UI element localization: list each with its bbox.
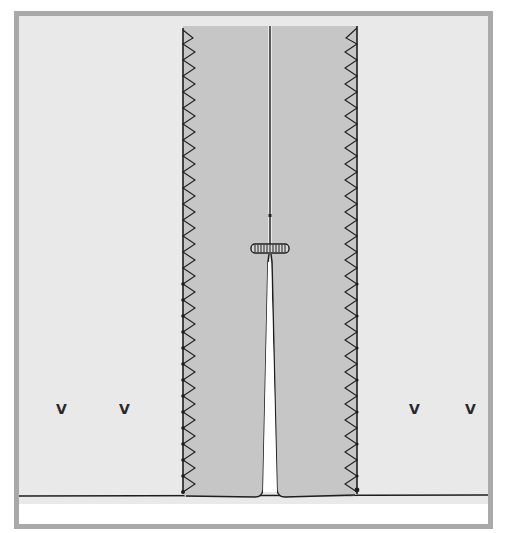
notch-mark-3: V [409, 402, 420, 416]
seam-knot [269, 214, 272, 217]
bar-tack [251, 244, 289, 253]
notch-mark-2: V [119, 402, 130, 416]
sewing-illustration [0, 0, 505, 533]
fabric-right-panel [272, 26, 357, 497]
notch-mark-1: V [56, 402, 67, 416]
notch-mark-4: V [465, 402, 476, 416]
fabric-left-panel [183, 26, 268, 497]
